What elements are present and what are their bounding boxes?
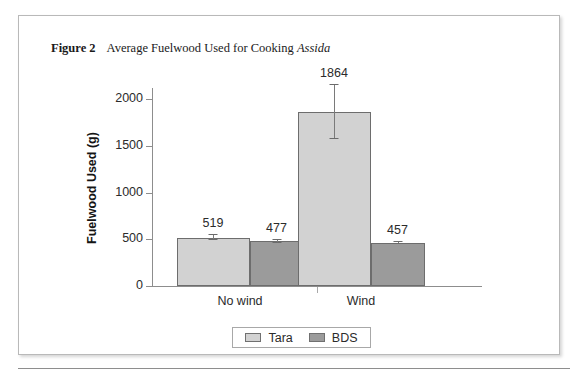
bar — [177, 238, 250, 286]
legend-swatch — [245, 333, 261, 342]
bar-value-label: 457 — [387, 223, 408, 237]
y-tick-mark — [146, 286, 152, 287]
error-bar-cap — [272, 242, 281, 243]
figure-number: Figure 2 — [51, 41, 96, 55]
chart-legend: TaraBDS — [232, 327, 371, 348]
y-tick-mark — [146, 99, 152, 100]
y-tick-label: 2000 — [115, 91, 143, 105]
error-bar-cap — [393, 243, 402, 244]
x-axis-mid-tick — [317, 287, 318, 293]
error-bar-cap — [393, 241, 402, 242]
x-axis-group-label: No wind — [217, 294, 262, 308]
x-axis-group-label: Wind — [347, 294, 375, 308]
page-divider-rule — [18, 368, 570, 369]
figure-caption-text: Average Fuelwood Used for Cooking — [107, 41, 297, 55]
figure-caption-italic: Assida — [297, 41, 330, 55]
error-bar-cap — [209, 239, 218, 240]
y-tick-mark — [146, 193, 152, 194]
figure-caption: Figure 2Average Fuelwood Used for Cookin… — [51, 41, 330, 56]
error-bar-cap — [330, 138, 339, 139]
y-tick-mark — [146, 146, 152, 147]
plot-area: 0500100015002000 5194771864457 — [152, 90, 482, 286]
y-tick-label: 0 — [136, 278, 143, 292]
bar-value-label: 477 — [266, 221, 287, 235]
y-tick-label: 1500 — [115, 138, 143, 152]
error-bar-cap — [272, 239, 281, 240]
y-tick-label: 500 — [122, 231, 143, 245]
legend-swatch — [309, 333, 325, 342]
y-axis-title: Fuelwood Used (g) — [85, 132, 99, 244]
y-tick-label: 1000 — [115, 185, 143, 199]
bar — [250, 241, 304, 286]
y-tick-mark — [146, 239, 152, 240]
bar-value-label: 519 — [203, 216, 224, 230]
error-bar — [334, 85, 335, 139]
legend-item[interactable]: Tara — [245, 331, 292, 345]
legend-item[interactable]: BDS — [309, 331, 358, 345]
error-bar-cap — [209, 234, 218, 235]
bar-value-label: 1864 — [320, 66, 348, 80]
legend-label: BDS — [332, 331, 358, 345]
error-bar-cap — [330, 84, 339, 85]
legend-label: Tara — [268, 331, 292, 345]
bar — [371, 243, 425, 286]
